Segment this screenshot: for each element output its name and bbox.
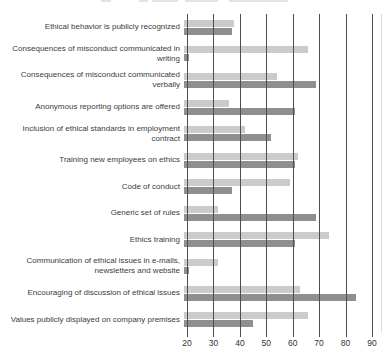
bars-container	[184, 67, 387, 94]
bar-light	[184, 73, 277, 80]
category-label: Encouraging of discussion of ethical iss…	[0, 280, 184, 307]
bar-dark	[184, 81, 316, 88]
chart-rows: Ethical behavior is publicly recognizedC…	[0, 14, 387, 333]
bar-dark	[184, 294, 356, 301]
bars-container	[184, 147, 387, 174]
x-axis-tick-label: 30	[203, 338, 223, 348]
bar-group: Generic set of rules	[0, 200, 387, 227]
bars-container	[184, 94, 387, 121]
bar-group: Communication of ethical issues in e-mai…	[0, 253, 387, 280]
bars-container	[184, 253, 387, 280]
bar-group: Code of conduct	[0, 173, 387, 200]
bar-light	[184, 232, 329, 239]
category-label: Consequences of misconduct communicated …	[0, 41, 184, 68]
x-axis: 2030405060708090	[187, 338, 381, 349]
category-label: Values publicly displayed on company pre…	[0, 306, 184, 333]
bar-light	[184, 259, 218, 266]
bar-dark	[184, 187, 232, 194]
category-label: Anonymous reporting options are offered	[0, 94, 184, 121]
bars-container	[184, 200, 387, 227]
bar-group: Ethics training	[0, 227, 387, 254]
category-label: Communication of ethical issues in e-mai…	[0, 253, 184, 280]
bar-dark	[184, 28, 232, 35]
bar-light	[184, 286, 300, 293]
bar-group: Anonymous reporting options are offered	[0, 94, 387, 121]
x-axis-tick-label: 40	[230, 338, 250, 348]
category-label: Ethics training	[0, 227, 184, 254]
x-axis-tick-label: 70	[309, 338, 329, 348]
bar-dark	[184, 108, 295, 115]
bars-container	[184, 227, 387, 254]
bar-dark	[184, 161, 295, 168]
cropped-header-fragment	[139, 0, 148, 2]
cropped-header-fragment	[229, 0, 288, 2]
bar-light	[184, 46, 308, 53]
bars-container	[184, 280, 387, 307]
cropped-header-fragment	[152, 0, 178, 2]
x-axis-tick-label: 80	[336, 338, 356, 348]
bar-group: Ethical behavior is publicly recognized	[0, 14, 387, 41]
bar-group: Inclusion of ethical standards in employ…	[0, 120, 387, 147]
bar-light	[184, 126, 245, 133]
x-axis-tick-label: 50	[256, 338, 276, 348]
x-axis-tick-label: 90	[362, 338, 382, 348]
cropped-header-fragment	[101, 0, 111, 2]
bar-dark	[184, 267, 189, 274]
category-label: Training new employees on ethics	[0, 147, 184, 174]
bar-dark	[184, 54, 189, 61]
bars-container	[184, 14, 387, 41]
bar-dark	[184, 214, 316, 221]
category-label: Consequences of misconduct communicated …	[0, 67, 184, 94]
bar-light	[184, 179, 290, 186]
category-label: Inclusion of ethical standards in employ…	[0, 120, 184, 147]
cropped-header-fragment	[185, 0, 218, 2]
bar-group: Training new employees on ethics	[0, 147, 387, 174]
bar-dark	[184, 320, 253, 327]
bar-dark	[184, 240, 295, 247]
bars-container	[184, 306, 387, 333]
bar-light	[184, 100, 229, 107]
bar-chart-figure: Ethical behavior is publicly recognizedC…	[0, 0, 387, 355]
bars-container	[184, 41, 387, 68]
bars-container	[184, 120, 387, 147]
bar-dark	[184, 134, 271, 141]
bar-group: Consequences of misconduct communicated …	[0, 41, 387, 68]
x-axis-tick-label: 20	[177, 338, 197, 348]
bar-group: Consequences of misconduct communicated …	[0, 67, 387, 94]
category-label: Generic set of rules	[0, 200, 184, 227]
bar-group: Encouraging of discussion of ethical iss…	[0, 280, 387, 307]
category-label: Ethical behavior is publicly recognized	[0, 14, 184, 41]
bar-light	[184, 20, 234, 27]
category-label: Code of conduct	[0, 173, 184, 200]
bars-container	[184, 173, 387, 200]
bar-light	[184, 206, 218, 213]
bar-light	[184, 153, 298, 160]
bar-light	[184, 312, 308, 319]
bar-group: Values publicly displayed on company pre…	[0, 306, 387, 333]
x-axis-tick-label: 60	[283, 338, 303, 348]
